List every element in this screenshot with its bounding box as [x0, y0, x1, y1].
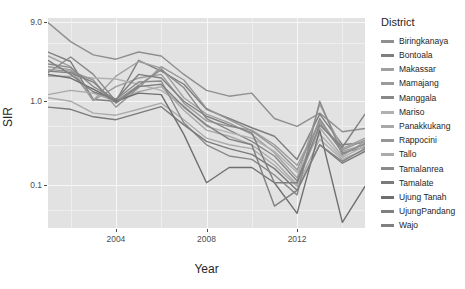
legend-item-label: Tallo	[399, 150, 416, 159]
legend-item-label: Mamajang	[399, 79, 439, 88]
x-tick-label: 2012	[267, 235, 327, 244]
legend-key-swatch	[381, 181, 394, 184]
legend-item-label: Wajo	[399, 221, 418, 230]
legend-key-swatch	[381, 167, 394, 170]
legend-key-swatch	[381, 68, 394, 71]
x-tick-label: 2008	[177, 235, 237, 244]
x-tick-label: 2004	[86, 235, 146, 244]
legend-item-bontoala[interactable]: Bontoala	[381, 48, 465, 62]
legend-item-label: Panakkukang	[399, 122, 451, 131]
series-lines	[48, 18, 365, 228]
x-tick-mark	[116, 229, 117, 232]
legend-item-label: Bontoala	[399, 51, 433, 60]
legend-item-panakkukang[interactable]: Panakkukang	[381, 119, 465, 133]
legend-key-swatch	[381, 111, 394, 114]
y-tick-mark	[44, 22, 47, 23]
legend-item-manggala[interactable]: Manggala	[381, 91, 465, 105]
legend-item-ujung-tanah[interactable]: Ujung Tanah	[381, 190, 465, 204]
series-line	[48, 87, 365, 185]
legend-key-swatch	[381, 210, 394, 213]
legend-item-label: Rappocini	[399, 136, 437, 145]
plot-panel	[48, 18, 365, 228]
chart-root: 9.01.00.1 SIR 200420082012 Year District…	[0, 0, 465, 289]
legend-item-biringkanaya[interactable]: Biringkanaya	[381, 34, 465, 48]
y-tick-mark	[44, 101, 47, 102]
legend-item-mariso[interactable]: Mariso	[381, 105, 465, 119]
legend-item-label: Tamalate	[399, 179, 434, 188]
legend-item-tamalate[interactable]: Tamalate	[381, 176, 465, 190]
legend-item-label: Manggala	[399, 94, 436, 103]
legend-key-swatch	[381, 125, 394, 128]
legend: District BiringkanayaBontoalaMakassarMam…	[381, 17, 465, 233]
legend-item-label: UjungPandang	[399, 207, 455, 216]
legend-key-swatch	[381, 196, 394, 199]
legend-item-mamajang[interactable]: Mamajang	[381, 77, 465, 91]
legend-key-swatch	[381, 96, 394, 99]
legend-key-swatch	[381, 54, 394, 57]
legend-item-wajo[interactable]: Wajo	[381, 218, 465, 232]
legend-item-label: Ujung Tanah	[399, 193, 447, 202]
legend-key-swatch	[381, 153, 394, 156]
legend-item-tamalanrea[interactable]: Tamalanrea	[381, 162, 465, 176]
y-axis-title: SIR	[1, 87, 15, 147]
legend-item-tallo[interactable]: Tallo	[381, 148, 465, 162]
legend-item-makassar[interactable]: Makassar	[381, 62, 465, 76]
legend-item-label: Makassar	[399, 65, 436, 74]
legend-item-ujungpandang[interactable]: UjungPandang	[381, 204, 465, 218]
y-tick-label: 0.1	[2, 181, 42, 190]
legend-item-label: Tamalanrea	[399, 165, 443, 174]
legend-item-rappocini[interactable]: Rappocini	[381, 133, 465, 147]
legend-title: District	[381, 17, 465, 28]
x-tick-mark	[297, 229, 298, 232]
y-tick-mark	[44, 185, 47, 186]
x-tick-mark	[207, 229, 208, 232]
legend-items: BiringkanayaBontoalaMakassarMamajangMang…	[381, 34, 465, 233]
legend-key-swatch	[381, 139, 394, 142]
x-axis-title: Year	[48, 262, 365, 276]
y-tick-label: 9.0	[2, 18, 42, 27]
legend-item-label: Mariso	[399, 108, 425, 117]
legend-item-label: Biringkanaya	[399, 37, 448, 46]
legend-key-swatch	[381, 40, 394, 43]
legend-key-swatch	[381, 224, 394, 227]
legend-key-swatch	[381, 82, 394, 85]
